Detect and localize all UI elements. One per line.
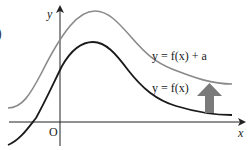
y-axis-label: y <box>47 8 52 20</box>
label-f-plus-a: y = f(x) + a <box>152 50 207 62</box>
graph-canvas <box>0 0 248 150</box>
x-axis-label: x <box>238 127 243 139</box>
origin-label: O <box>49 126 58 138</box>
label-f: y = f(x) <box>152 82 189 94</box>
translation-arrow-icon <box>197 83 222 113</box>
